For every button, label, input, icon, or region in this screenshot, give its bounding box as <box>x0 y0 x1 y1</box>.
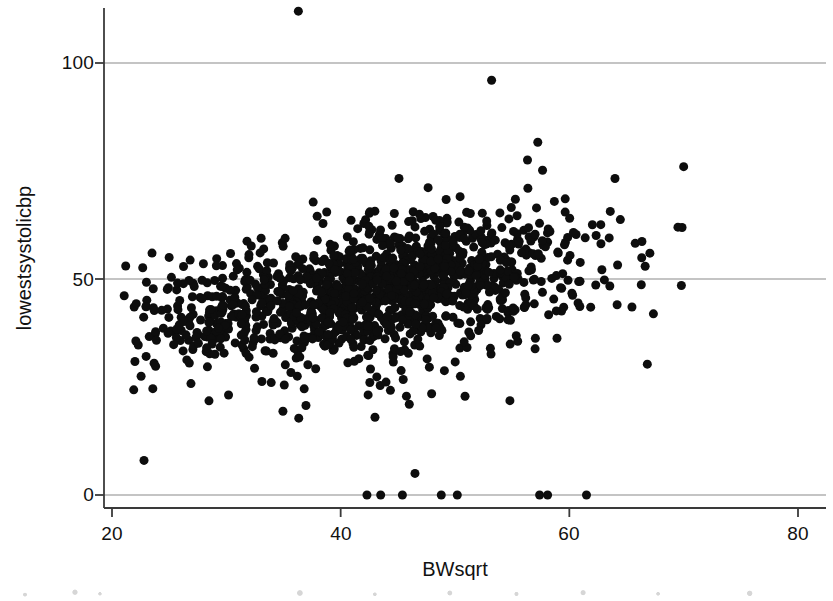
data-point <box>456 372 465 381</box>
data-point <box>322 280 331 289</box>
data-point <box>140 456 149 465</box>
data-point <box>202 327 211 336</box>
data-point <box>315 327 324 336</box>
data-point <box>353 224 362 233</box>
data-point <box>411 320 420 329</box>
y-tick-label-50: 50 <box>72 269 94 291</box>
data-point <box>586 303 595 312</box>
data-point <box>538 166 547 175</box>
data-point <box>549 295 558 304</box>
data-point <box>370 413 379 422</box>
data-point <box>275 288 284 297</box>
x-axis-title: BWsqrt <box>422 558 488 581</box>
data-point <box>596 239 605 248</box>
data-point <box>368 345 377 354</box>
data-point <box>173 279 182 288</box>
data-point <box>132 299 141 308</box>
data-point <box>218 274 227 283</box>
data-point <box>424 183 433 192</box>
data-point <box>501 288 510 297</box>
data-point <box>240 336 249 345</box>
data-point <box>398 316 407 325</box>
data-point <box>531 334 540 343</box>
data-point <box>482 217 491 226</box>
data-point <box>198 294 207 303</box>
data-point <box>343 358 352 367</box>
data-point <box>269 349 278 358</box>
data-point <box>442 289 451 298</box>
data-point <box>550 197 559 206</box>
data-point <box>431 216 440 225</box>
y-axis-title: lowestsystolicbp <box>13 186 36 331</box>
data-point <box>554 248 563 257</box>
data-point <box>326 240 335 249</box>
data-point <box>324 330 333 339</box>
data-point <box>397 366 406 375</box>
data-point <box>317 288 326 297</box>
data-point <box>459 234 468 243</box>
data-point <box>286 368 295 377</box>
data-point <box>476 226 485 235</box>
data-point <box>149 284 158 293</box>
data-point <box>365 260 374 269</box>
data-point <box>637 280 646 289</box>
data-point <box>346 335 355 344</box>
data-point <box>396 246 405 255</box>
data-point <box>148 384 157 393</box>
data-point <box>402 392 411 401</box>
data-point <box>185 358 194 367</box>
data-point <box>520 290 529 299</box>
data-point <box>330 289 339 298</box>
data-point <box>486 344 495 353</box>
data-point <box>150 306 159 315</box>
data-point <box>392 277 401 286</box>
data-point <box>373 327 382 336</box>
data-point <box>186 256 195 265</box>
data-point <box>582 491 591 500</box>
data-point <box>309 198 318 207</box>
data-point <box>448 296 457 305</box>
data-point <box>376 491 385 500</box>
data-point <box>382 320 391 329</box>
data-point <box>466 331 475 340</box>
data-point <box>233 265 242 274</box>
data-point <box>383 312 392 321</box>
data-point <box>563 256 572 265</box>
data-point <box>212 261 221 270</box>
data-point <box>378 241 387 250</box>
data-point <box>216 334 225 343</box>
data-point <box>397 269 406 278</box>
data-point <box>456 192 465 201</box>
data-point <box>210 350 219 359</box>
data-point <box>381 296 390 305</box>
data-point <box>294 7 303 16</box>
data-point <box>469 243 478 252</box>
y-tick-label-0: 0 <box>83 484 94 506</box>
data-point <box>415 210 424 219</box>
data-point <box>286 266 295 275</box>
data-point <box>341 292 350 301</box>
scatter-plot-figure: 100 50 0 20 40 60 80 BWsqrt lowestsystol… <box>0 0 833 601</box>
data-point <box>575 302 584 311</box>
data-point <box>390 209 399 218</box>
data-point <box>530 275 539 284</box>
data-point <box>427 244 436 253</box>
data-point <box>641 262 650 271</box>
data-point <box>363 322 372 331</box>
data-point <box>301 401 310 410</box>
data-point <box>453 318 462 327</box>
data-point <box>294 414 303 423</box>
data-point <box>605 281 614 290</box>
data-point <box>394 174 403 183</box>
data-point <box>241 302 250 311</box>
data-point <box>543 491 552 500</box>
data-point <box>484 303 493 312</box>
data-point <box>281 335 290 344</box>
data-point <box>429 293 438 302</box>
data-point <box>515 237 524 246</box>
data-point <box>173 305 182 314</box>
data-point <box>534 249 543 258</box>
data-point <box>677 281 686 290</box>
data-point <box>673 223 682 232</box>
data-point <box>194 339 203 348</box>
